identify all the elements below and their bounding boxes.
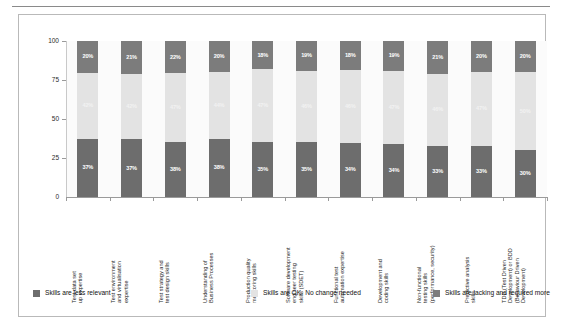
x-axis-label: Understanding ofBusiness Processes [197, 203, 218, 303]
bar-segment-less-relevant: 33% [471, 146, 492, 197]
bar-value-label: 19% [296, 52, 317, 59]
bar-segment-lacking-required: 20% [209, 41, 230, 72]
x-tick-mark [153, 197, 154, 201]
x-axis-label: Test environmentand virtualisationexpert… [110, 203, 131, 303]
bar-value-label: 38% [209, 164, 230, 171]
bar-segment-ok-no-change: 46% [340, 70, 361, 143]
bar-value-label: 33% [427, 168, 448, 175]
x-axis-label-line: Development) or BDD [507, 203, 513, 303]
bar-value-label: 46% [340, 103, 361, 110]
bar-segment-lacking-required: 21% [121, 41, 142, 74]
x-axis-label-line: (Behaviour Driven [514, 203, 520, 303]
bar-segment-less-relevant: 38% [209, 139, 230, 197]
bar-segment-less-relevant: 34% [383, 144, 404, 197]
x-axis-line [66, 197, 547, 198]
x-tick-mark [285, 197, 286, 201]
x-axis-label-line: Development and [376, 203, 382, 303]
bar-column: 35%47%18% [252, 41, 273, 197]
bar-value-label: 42% [77, 102, 98, 109]
bar-value-label: 47% [471, 105, 492, 112]
bar-segment-ok-no-change: 47% [165, 73, 186, 142]
bar-value-label: 34% [340, 166, 361, 173]
x-axis-label-line: Understanding of [201, 203, 207, 303]
x-axis-label-line: TDD (Test Driven [501, 203, 507, 303]
bar-segment-less-relevant: 33% [427, 146, 448, 197]
bar-segment-lacking-required: 18% [340, 41, 361, 70]
x-axis-labels: Test data setup expertiseTest environmen… [66, 203, 547, 303]
bar-segment-less-relevant: 38% [165, 142, 186, 197]
x-axis-label-text: Software developmentengineer testingskil… [286, 203, 305, 303]
x-axis-label-text: Test strategy andtest design skills [158, 203, 171, 303]
x-axis-label: Test data setup expertise [66, 203, 87, 303]
bar-value-label: 19% [383, 52, 404, 59]
page-top-rule [12, 6, 550, 7]
x-axis-label: Development andcoding skills [372, 203, 393, 303]
bar-segment-ok-no-change: 50% [515, 72, 536, 150]
bar-segment-ok-no-change: 42% [121, 74, 142, 140]
bar-column: 30%50%20% [515, 41, 536, 197]
bar-segment-less-relevant: 37% [121, 139, 142, 197]
x-tick-mark [241, 197, 242, 201]
bar-value-label: 20% [209, 53, 230, 60]
bar-value-label: 20% [77, 53, 98, 60]
bar-value-label: 34% [383, 167, 404, 174]
bar-value-label: 44% [209, 102, 230, 109]
bar-column: 38%44%20% [209, 41, 230, 197]
bar-segment-less-relevant: 34% [340, 143, 361, 197]
x-axis-label-line: Development) [520, 203, 526, 303]
bar-column: 37%42%21% [121, 41, 142, 197]
x-tick-mark [503, 197, 504, 201]
x-axis-label: TDD (Test DrivenDevelopment) or BDD(Beha… [503, 203, 524, 303]
bar-segment-lacking-required: 20% [471, 41, 492, 72]
bar-segment-ok-no-change: 46% [296, 71, 317, 143]
x-axis-label: Software developmentengineer testingskil… [285, 203, 306, 303]
y-axis: 0255075100 [37, 37, 66, 203]
bar-segment-less-relevant: 37% [77, 139, 98, 197]
legend-item[interactable]: Skills are less relevant [33, 289, 111, 297]
x-axis-label-line: (performance, security) [430, 203, 436, 303]
x-axis-label-text: Test data setup expertise [70, 203, 83, 303]
y-tick-label: 75 [52, 76, 59, 84]
x-axis-label: Production qualitymonitoring skills [241, 203, 262, 303]
bar-value-label: 38% [165, 166, 186, 173]
bar-value-label: 22% [165, 54, 186, 61]
x-axis-label-line: automation expertise [339, 203, 345, 303]
bar-value-label: 47% [383, 104, 404, 111]
x-axis-label-text: Understanding ofBusiness Processes [201, 203, 214, 303]
legend-item[interactable]: Skills are OK- No change needed [251, 289, 361, 297]
y-tick-label: 100 [48, 37, 59, 45]
bar-segment-lacking-required: 20% [515, 41, 536, 72]
legend-swatch-icon [433, 290, 440, 297]
x-axis-label-line: Test data set [70, 203, 76, 303]
bar-segment-ok-no-change: 47% [383, 71, 404, 144]
bar-column: 37%42%20% [77, 41, 98, 197]
y-tick-label: 50 [52, 115, 59, 123]
bar-segment-lacking-required: 19% [383, 41, 404, 71]
x-axis-label-line: test design skills [164, 203, 170, 303]
bar-segment-less-relevant: 35% [252, 142, 273, 197]
bar-value-label: 35% [252, 166, 273, 173]
bar-value-label: 30% [515, 170, 536, 177]
bar-value-label: 18% [340, 52, 361, 59]
bar-value-label: 50% [515, 108, 536, 115]
y-tick-label: 0 [55, 193, 59, 201]
chart-frame: 0255075100 37%42%20%37%42%21%38%47%22%38… [18, 14, 546, 317]
bar-value-label: 42% [121, 103, 142, 110]
chart-legend: Skills are less relevantSkills are OK- N… [18, 289, 546, 305]
bar-value-label: 37% [121, 165, 142, 172]
bar-value-label: 47% [252, 102, 273, 109]
x-tick-mark [110, 197, 111, 201]
bar-column: 33%47%20% [471, 41, 492, 197]
bar-segment-lacking-required: 20% [77, 41, 98, 73]
x-tick-mark [372, 197, 373, 201]
bar-segment-lacking-required: 19% [296, 41, 317, 71]
bar-column: 38%47%22% [165, 41, 186, 197]
legend-item[interactable]: Skills are lacking and required more [433, 289, 550, 297]
x-axis-label-line: Functional test [332, 203, 338, 303]
bar-segment-ok-no-change: 44% [209, 72, 230, 139]
x-tick-mark [416, 197, 417, 201]
bar-column: 34%46%18% [340, 41, 361, 197]
x-tick-mark [460, 197, 461, 201]
chart-page: 0255075100 37%42%20%37%42%21%38%47%22%38… [0, 0, 562, 333]
bars-layer: 37%42%20%37%42%21%38%47%22%38%44%20%35%4… [66, 41, 547, 197]
